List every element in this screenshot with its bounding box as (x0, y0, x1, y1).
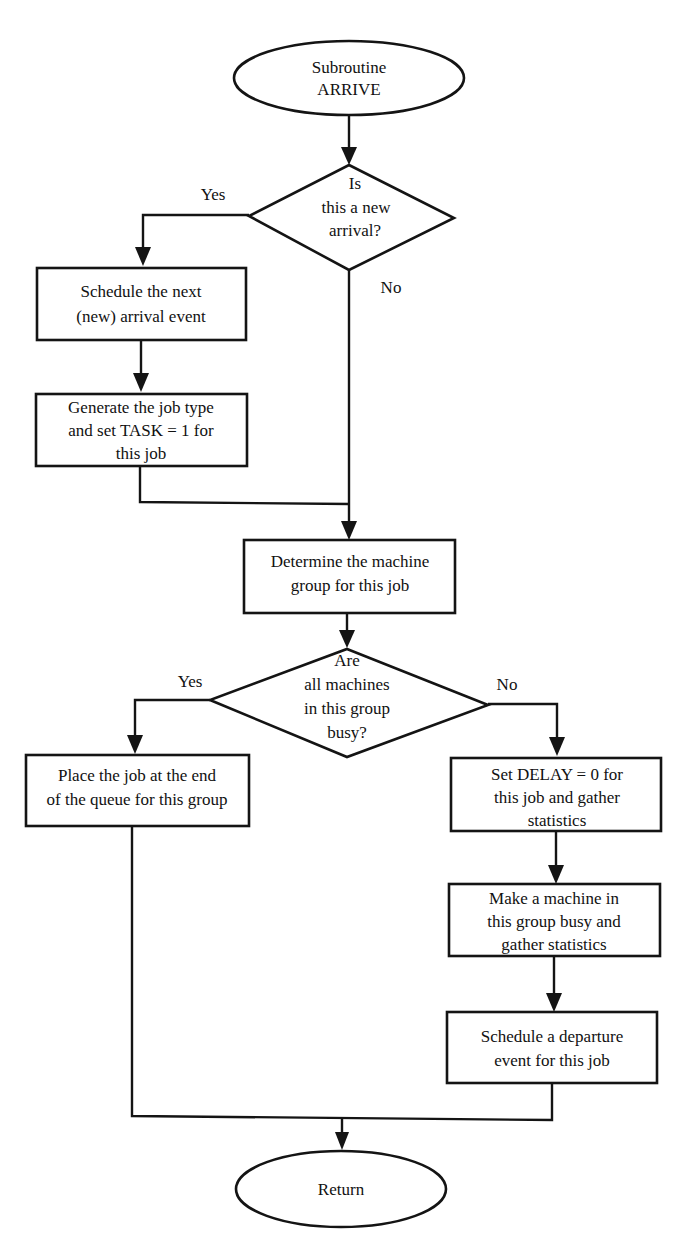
edge-label-yes-1: Yes (201, 185, 226, 204)
decision-new-arrival: Is this a new arrival? (249, 165, 454, 270)
place-queue-line-1: Place the job at the end (58, 766, 217, 785)
schedule-departure-line-2: event for this job (494, 1051, 610, 1070)
edge-label-no-2: No (497, 675, 518, 694)
schedule-next-line-1: Schedule the next (81, 282, 202, 301)
edge-label-yes-2: Yes (178, 672, 203, 691)
determine-line-2: group for this job (291, 576, 410, 595)
generate-line-2: and set TASK = 1 for (68, 421, 214, 440)
process-schedule-next-arrival: Schedule the next (new) arrival event (37, 268, 246, 340)
decision-all-machines-busy: Are all machines in this group busy? (210, 649, 488, 757)
generate-line-3: this job (116, 444, 167, 463)
schedule-next-line-2: (new) arrival event (76, 307, 206, 326)
arrow-head-icon (341, 521, 357, 540)
process-schedule-departure: Schedule a departure event for this job (447, 1012, 657, 1083)
end-terminator: Return (236, 1151, 446, 1227)
edge-generate-to-join (140, 466, 349, 504)
decision-2-line-4: busy? (327, 723, 367, 742)
edge-all-busy-yes (135, 700, 210, 738)
generate-line-1: Generate the job type (68, 398, 214, 417)
process-determine-machine-group: Determine the machine group for this job (244, 540, 455, 613)
decision-2-line-2: all machines (304, 675, 389, 694)
place-queue-line-2: of the queue for this group (47, 790, 228, 809)
arrow-head-icon (127, 735, 143, 754)
start-label-line-1: Subroutine (312, 58, 387, 77)
set-delay-line-1: Set DELAY = 0 for (491, 765, 623, 784)
arrow-head-icon (549, 737, 565, 756)
decision-1-line-2: this a new (322, 198, 392, 217)
decision-1-line-1: Is (349, 174, 361, 193)
make-busy-line-2: this group busy and (487, 912, 621, 931)
flowchart-canvas: Subroutine ARRIVE Is this a new arrival?… (0, 0, 691, 1252)
process-generate-job-type: Generate the job type and set TASK = 1 f… (36, 394, 247, 466)
schedule-departure-line-1: Schedule a departure (481, 1027, 624, 1046)
make-busy-line-3: gather statistics (501, 935, 606, 954)
process-set-delay: Set DELAY = 0 for this job and gather st… (451, 758, 661, 831)
start-terminator: Subroutine ARRIVE (234, 41, 464, 115)
arrow-head-icon (335, 1132, 349, 1150)
set-delay-line-2: this job and gather (494, 788, 620, 807)
arrow-head-icon (133, 373, 149, 392)
process-place-job-in-queue: Place the job at the end of the queue fo… (26, 755, 249, 826)
return-label: Return (318, 1180, 365, 1199)
edge-all-busy-no (488, 704, 557, 740)
arrow-head-icon (546, 993, 562, 1012)
decision-2-line-3: in this group (304, 699, 390, 718)
determine-line-1: Determine the machine (271, 552, 430, 571)
make-busy-line-1: Make a machine in (489, 889, 619, 908)
decision-1-line-3: arrival? (329, 221, 381, 240)
decision-2-line-1: Are (334, 651, 359, 670)
arrow-head-icon (339, 630, 355, 648)
process-make-machine-busy: Make a machine in this group busy and ga… (449, 884, 660, 956)
arrow-head-icon (341, 147, 357, 165)
edge-label-no-1: No (381, 278, 402, 297)
arrow-head-icon (135, 247, 151, 266)
set-delay-line-3: statistics (528, 811, 587, 830)
edge-new-arrival-yes (143, 215, 249, 250)
arrow-head-icon (548, 865, 564, 884)
start-label-line-2: ARRIVE (317, 80, 380, 99)
